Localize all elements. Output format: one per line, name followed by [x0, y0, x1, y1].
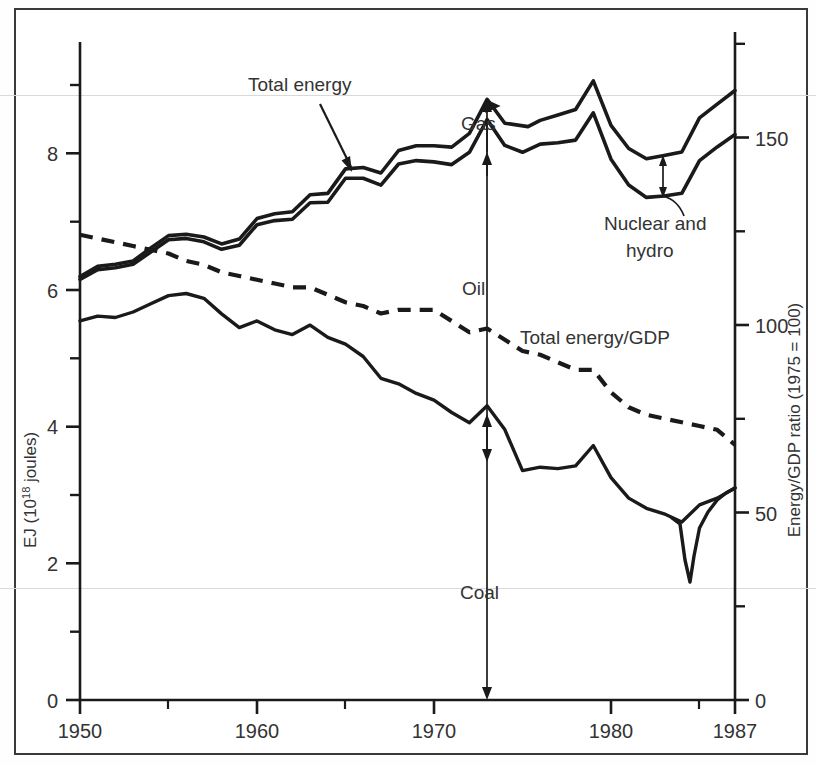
label-coal: Coal — [460, 582, 499, 603]
y-axis-right-title: Energy/GDP ratio (1975 = 100) — [785, 303, 804, 538]
y-axis-left-title: EJ (1018 joules) — [20, 432, 40, 548]
energy-chart-svg: 0 2 4 6 8 1950 1960 1970 1980 1987 0 50 … — [0, 0, 816, 765]
label-total-energy-gdp: Total energy/GDP — [520, 327, 670, 348]
y2-tick-label-0: 0 — [755, 690, 766, 712]
right-axis-title-text: Energy/GDP ratio (1975 = 100) — [785, 303, 804, 538]
label-oil: Oil — [462, 278, 485, 299]
y2-tick-label-50: 50 — [755, 503, 777, 525]
y-tick-label-6: 6 — [47, 280, 58, 302]
left-axis-title-prefix: EJ (10 — [21, 499, 40, 548]
svg-text:EJ (1018 joules): EJ (1018 joules) — [20, 432, 40, 548]
y-axis-right-tick-labels: 0 50 100 150 — [755, 128, 788, 712]
annotation-arrow-coal — [482, 414, 492, 700]
annotation-arrow-nuclear-hydro — [659, 155, 684, 216]
x-axis-tick-labels: 1950 1960 1970 1980 1987 — [58, 720, 758, 742]
x-tick-label-1950: 1950 — [58, 720, 103, 742]
figure-container: 0 2 4 6 8 1950 1960 1970 1980 1987 0 50 … — [0, 0, 816, 765]
left-axis-title-superscript: 18 — [20, 487, 32, 499]
axis-left — [66, 42, 80, 700]
y-tick-label-0: 0 — [47, 690, 58, 712]
x-tick-label-1970: 1970 — [412, 720, 457, 742]
label-total-energy: Total energy — [248, 74, 352, 95]
axis-bottom — [80, 700, 735, 714]
x-tick-label-1987: 1987 — [713, 720, 758, 742]
x-tick-label-1960: 1960 — [235, 720, 280, 742]
left-axis-title-suffix: joules) — [21, 432, 40, 487]
axis-right — [735, 32, 749, 700]
y2-tick-label-100: 100 — [755, 315, 788, 337]
label-nuclear-and-hydro-line1: Nuclear and — [604, 213, 706, 234]
annotation-arrow-total-energy — [320, 104, 352, 172]
label-gas: Gas — [461, 113, 496, 134]
label-nuclear-and-hydro-line2: hydro — [626, 240, 674, 261]
y-tick-label-2: 2 — [47, 553, 58, 575]
y-tick-label-8: 8 — [47, 143, 58, 165]
y2-tick-label-150: 150 — [755, 128, 788, 150]
y-tick-label-4: 4 — [47, 416, 58, 438]
y-axis-left-tick-labels: 0 2 4 6 8 — [47, 143, 58, 712]
x-tick-label-1980: 1980 — [589, 720, 634, 742]
